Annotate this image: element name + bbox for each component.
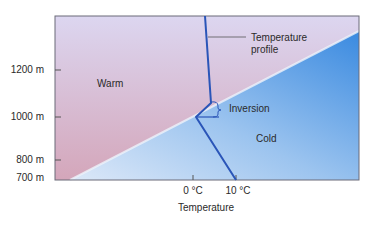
inversion-label: Inversion	[229, 104, 270, 114]
x-tick-0c: 0 °C	[183, 186, 203, 196]
x-axis-title: Temperature	[178, 203, 234, 213]
cold-label: Cold	[256, 134, 277, 144]
warm-label: Warm	[97, 79, 123, 89]
temperature-profile-label-line1: Temperature	[251, 32, 307, 44]
y-tick-1000: 1000 m	[0, 112, 44, 122]
y-tick-700: 700 m	[0, 173, 44, 183]
y-tick-1200: 1200 m	[0, 65, 44, 75]
temperature-profile-label: Temperature profile	[251, 32, 307, 56]
y-tick-800: 800 m	[0, 155, 44, 165]
x-tick-10c: 10 °C	[225, 186, 250, 196]
temperature-profile-label-line2: profile	[251, 44, 307, 56]
